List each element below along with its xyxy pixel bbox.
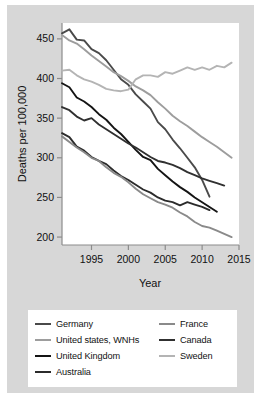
- chart-card: 200250300350400450 19952000200520102015 …: [7, 5, 254, 393]
- line-chart-svg: 200250300350400450 19952000200520102015 …: [7, 5, 254, 297]
- legend-swatch-icon: [35, 355, 51, 357]
- x-tick-label: 2005: [154, 253, 178, 265]
- legend-item[interactable]: Sweden: [159, 348, 229, 364]
- x-tick-label: 2000: [117, 253, 141, 265]
- y-axis-label: Deaths per 100,000: [16, 86, 28, 183]
- x-tick-marks: [92, 245, 240, 250]
- legend-label: Canada: [180, 335, 212, 345]
- legend-item[interactable]: France: [159, 316, 229, 332]
- legend-label: Australia: [56, 367, 91, 377]
- legend-label: Germany: [56, 319, 93, 329]
- legend-column-left: GermanyUnited states, WNHsUnited Kingdom…: [35, 316, 159, 380]
- plot-area: 200250300350400450 19952000200520102015 …: [7, 5, 254, 297]
- x-tick-label: 2015: [227, 253, 251, 265]
- y-tick-label: 300: [36, 151, 54, 163]
- legend-item[interactable]: United Kingdom: [35, 348, 159, 364]
- y-tick-labels: 200250300350400450: [36, 32, 54, 242]
- y-tick-label: 200: [36, 231, 54, 243]
- legend-item[interactable]: Germany: [35, 316, 159, 332]
- legend-item[interactable]: Canada: [159, 332, 229, 348]
- legend-column-right: FranceCanadaSweden: [159, 316, 229, 380]
- figure: 200250300350400450 19952000200520102015 …: [0, 0, 261, 400]
- legend-swatch-icon: [159, 339, 175, 341]
- x-axis-label: Year: [139, 277, 162, 289]
- legend-label: United states, WNHs: [56, 335, 139, 345]
- legend-item[interactable]: Australia: [35, 364, 159, 380]
- chart-legend: GermanyUnited states, WNHsUnited Kingdom…: [28, 310, 237, 387]
- legend-label: United Kingdom: [56, 351, 120, 361]
- x-tick-label: 2010: [190, 253, 214, 265]
- y-tick-marks: [57, 39, 62, 237]
- y-tick-label: 400: [36, 72, 54, 84]
- legend-swatch-icon: [35, 371, 51, 373]
- y-tick-label: 350: [36, 112, 54, 124]
- y-tick-label: 250: [36, 191, 54, 203]
- plot-canvas: [62, 23, 239, 245]
- legend-label: Sweden: [180, 351, 213, 361]
- legend-swatch-icon: [159, 323, 175, 325]
- legend-swatch-icon: [159, 355, 175, 357]
- x-tick-label: 1995: [80, 253, 104, 265]
- x-tick-labels: 19952000200520102015: [80, 253, 251, 265]
- legend-swatch-icon: [35, 339, 51, 341]
- legend-label: France: [180, 319, 208, 329]
- legend-item[interactable]: United states, WNHs: [35, 332, 159, 348]
- y-tick-label: 450: [36, 32, 54, 44]
- legend-swatch-icon: [35, 323, 51, 325]
